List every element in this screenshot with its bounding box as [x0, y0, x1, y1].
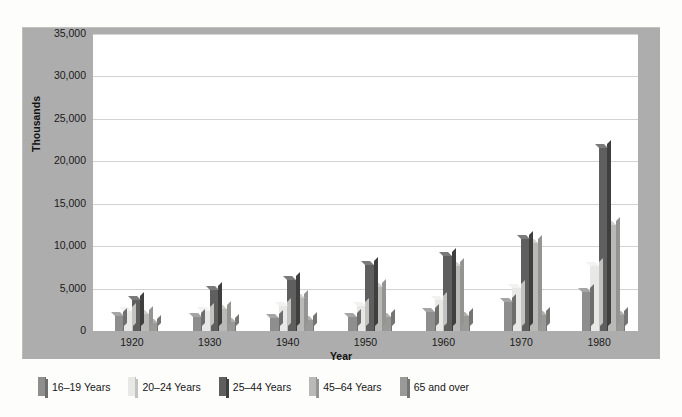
- x-axis-title: Year: [0, 350, 682, 362]
- bar: [193, 317, 202, 331]
- bar-face: [270, 318, 280, 331]
- x-axis-tick-label: 1970: [482, 336, 560, 348]
- bar-face: [348, 317, 358, 331]
- legend-swatch-face: [128, 377, 136, 396]
- x-axis-tick-label: 1980: [560, 336, 638, 348]
- gridline: [93, 161, 638, 162]
- legend-swatch-face: [38, 377, 46, 396]
- legend-item: 65 and over: [400, 377, 469, 396]
- bar-face: [504, 302, 514, 331]
- legend-swatch-face: [309, 377, 317, 396]
- legend-swatch-face: [400, 377, 408, 396]
- x-axis-tick-label: 1920: [93, 336, 171, 348]
- bar-face: [582, 292, 592, 331]
- legend-label: 16–19 Years: [52, 381, 110, 393]
- y-axis-tick-label: 0: [28, 324, 86, 336]
- legend-item: 45–64 Years: [309, 377, 381, 396]
- gridline: [93, 204, 638, 205]
- legend-label: 20–24 Years: [142, 381, 200, 393]
- legend-swatch: [38, 377, 45, 396]
- y-axis-tick-label: 35,000: [28, 27, 86, 39]
- bar-face: [426, 312, 436, 331]
- legend-label: 65 and over: [414, 381, 469, 393]
- legend-item: 20–24 Years: [128, 377, 200, 396]
- gridline: [93, 76, 638, 77]
- y-axis-tick-label: 30,000: [28, 69, 86, 81]
- gridline: [93, 246, 638, 247]
- y-axis-tick-label: 10,000: [28, 239, 86, 251]
- bar: [426, 312, 435, 331]
- gridline: [93, 34, 638, 35]
- chart-legend: 16–19 Years20–24 Years25–44 Years45–64 Y…: [38, 377, 487, 396]
- y-axis-tick-label: 15,000: [28, 197, 86, 209]
- plot-area: [93, 34, 638, 331]
- legend-label: 45–64 Years: [323, 381, 381, 393]
- y-axis-tick-label: 5,000: [28, 282, 86, 294]
- bar: [115, 316, 124, 331]
- legend-item: 16–19 Years: [38, 377, 110, 396]
- legend-swatch: [128, 377, 135, 396]
- gridline: [93, 119, 638, 120]
- legend-item: 25–44 Years: [219, 377, 291, 396]
- legend-swatch: [400, 377, 407, 396]
- x-axis-tick-label: 1930: [171, 336, 249, 348]
- bar-face: [193, 317, 203, 331]
- y-axis-tick-label: 20,000: [28, 154, 86, 166]
- y-axis-title: Thousands: [30, 96, 42, 152]
- bar: [582, 292, 591, 331]
- bar: [348, 317, 357, 331]
- bar-face: [115, 316, 125, 331]
- legend-swatch-face: [219, 377, 227, 396]
- y-axis-tick-label: 25,000: [28, 112, 86, 124]
- x-axis-tick-label: 1950: [327, 336, 405, 348]
- x-axis-tick-label: 1940: [249, 336, 327, 348]
- bar: [270, 318, 279, 331]
- bar: [504, 302, 513, 331]
- legend-swatch: [309, 377, 316, 396]
- legend-label: 25–44 Years: [233, 381, 291, 393]
- x-axis-tick-label: 1960: [404, 336, 482, 348]
- legend-swatch: [219, 377, 226, 396]
